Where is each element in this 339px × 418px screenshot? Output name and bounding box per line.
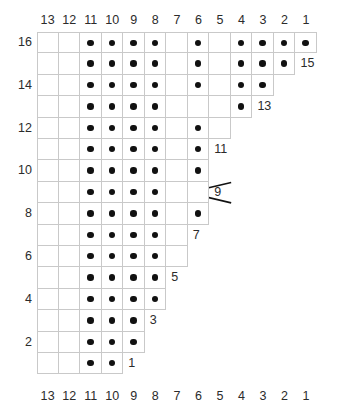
chart-cell-r16-c6 bbox=[188, 32, 210, 53]
chart-cell-r16-c4 bbox=[231, 32, 253, 53]
chart-cell-r10-c12 bbox=[59, 160, 81, 181]
chart-cell-r3-c12 bbox=[59, 310, 81, 331]
chart-cell-r6-c13 bbox=[37, 246, 59, 267]
purl-dot-icon bbox=[109, 189, 115, 195]
chart-cell-r14-c5 bbox=[209, 75, 231, 96]
purl-dot-icon bbox=[259, 82, 265, 88]
chart-cell-r8-c10 bbox=[102, 203, 124, 224]
chart-cell-r9-c10 bbox=[102, 182, 124, 203]
row-label-1: 1 bbox=[128, 353, 135, 374]
row-label-15: 15 bbox=[300, 53, 314, 74]
purl-dot-icon bbox=[238, 82, 244, 88]
chart-cell-r9-c6 bbox=[188, 182, 210, 203]
purl-dot-icon bbox=[87, 40, 93, 46]
chart-cell-r11-c9 bbox=[123, 139, 145, 160]
chart-cell-r15-c6 bbox=[188, 53, 210, 74]
purl-dot-icon bbox=[281, 40, 287, 46]
purl-dot-icon bbox=[130, 167, 136, 173]
purl-dot-icon bbox=[87, 125, 93, 131]
purl-dot-icon bbox=[195, 60, 201, 66]
chart-cell-r8-c6 bbox=[188, 203, 210, 224]
chart-cell-r16-c11 bbox=[80, 32, 102, 53]
chart-cell-r15-c11 bbox=[80, 53, 102, 74]
chart-cell-r14-c3 bbox=[252, 75, 274, 96]
purl-dot-icon bbox=[109, 339, 115, 345]
purl-dot-icon bbox=[87, 210, 93, 216]
chart-cell-r15-c4 bbox=[231, 53, 253, 74]
purl-dot-icon bbox=[130, 317, 136, 323]
purl-dot-icon bbox=[109, 232, 115, 238]
row-label-14: 14 bbox=[6, 75, 32, 96]
chart-cell-r2-c13 bbox=[37, 332, 59, 353]
chart-row-3 bbox=[37, 310, 145, 331]
purl-dot-icon bbox=[130, 146, 136, 152]
row-label-16: 16 bbox=[6, 32, 32, 53]
purl-dot-icon bbox=[238, 60, 244, 66]
purl-dot-icon bbox=[109, 317, 115, 323]
column-label-top-11: 11 bbox=[80, 10, 102, 30]
purl-dot-icon bbox=[130, 253, 136, 259]
chart-cell-r5-c11 bbox=[80, 267, 102, 288]
chart-cell-r10-c7 bbox=[166, 160, 188, 181]
chart-cell-r14-c4 bbox=[231, 75, 253, 96]
purl-dot-icon bbox=[152, 189, 158, 195]
purl-dot-icon bbox=[87, 167, 93, 173]
purl-dot-icon bbox=[109, 60, 115, 66]
purl-dot-icon bbox=[87, 296, 93, 302]
chart-cell-r14-c10 bbox=[102, 75, 124, 96]
chart-cell-r5-c10 bbox=[102, 267, 124, 288]
chart-cell-r14-c12 bbox=[59, 75, 81, 96]
purl-dot-icon bbox=[130, 60, 136, 66]
chart-cell-r7-c10 bbox=[102, 225, 124, 246]
chart-row-4 bbox=[37, 289, 166, 310]
chart-cell-r7-c12 bbox=[59, 225, 81, 246]
chart-cell-r1-c13 bbox=[37, 353, 59, 374]
chart-cell-r13-c8 bbox=[145, 96, 167, 117]
purl-dot-icon bbox=[87, 146, 93, 152]
chart-cell-r14-c6 bbox=[188, 75, 210, 96]
column-label-bottom-10: 10 bbox=[102, 386, 124, 406]
purl-dot-icon bbox=[109, 210, 115, 216]
column-label-top-10: 10 bbox=[102, 10, 124, 30]
row-label-11: 11 bbox=[214, 139, 227, 160]
purl-dot-icon bbox=[130, 274, 136, 280]
chart-cell-r12-c13 bbox=[37, 118, 59, 139]
purl-dot-icon bbox=[87, 360, 93, 366]
chart-cell-r5-c8 bbox=[145, 267, 167, 288]
chart-cell-r13-c7 bbox=[166, 96, 188, 117]
chart-cell-r8-c13 bbox=[37, 203, 59, 224]
chart-cell-r8-c11 bbox=[80, 203, 102, 224]
chart-row-5 bbox=[37, 267, 166, 288]
chart-cell-r7-c11 bbox=[80, 225, 102, 246]
chart-row-10 bbox=[37, 160, 209, 181]
chart-cell-r6-c8 bbox=[145, 246, 167, 267]
purl-dot-icon bbox=[109, 167, 115, 173]
chart-cell-r8-c8 bbox=[145, 203, 167, 224]
chart-cell-r11-c13 bbox=[37, 139, 59, 160]
chart-cell-r4-c13 bbox=[37, 289, 59, 310]
column-label-top-9: 9 bbox=[123, 10, 145, 30]
column-label-bottom-8: 8 bbox=[145, 386, 167, 406]
purl-dot-icon bbox=[152, 210, 158, 216]
chart-cell-r6-c11 bbox=[80, 246, 102, 267]
purl-dot-icon bbox=[195, 210, 201, 216]
row-label-12: 12 bbox=[6, 118, 32, 139]
chart-cell-r5-c12 bbox=[59, 267, 81, 288]
row-label-9: 9 bbox=[214, 182, 221, 203]
purl-dot-icon bbox=[87, 274, 93, 280]
purl-dot-icon bbox=[259, 40, 265, 46]
chart-cell-r12-c6 bbox=[188, 118, 210, 139]
purl-dot-icon bbox=[195, 167, 201, 173]
chart-cell-r14-c9 bbox=[123, 75, 145, 96]
column-label-top-12: 12 bbox=[59, 10, 81, 30]
column-label-top-5: 5 bbox=[209, 10, 231, 30]
row-label-8: 8 bbox=[6, 203, 32, 224]
chart-cell-r8-c9 bbox=[123, 203, 145, 224]
row-label-4: 4 bbox=[6, 289, 32, 310]
chart-cell-r16-c2 bbox=[274, 32, 296, 53]
chart-row-15 bbox=[37, 53, 295, 74]
purl-dot-icon bbox=[152, 60, 158, 66]
column-label-bottom-9: 9 bbox=[123, 386, 145, 406]
chart-cell-r13-c9 bbox=[123, 96, 145, 117]
column-label-top-1: 1 bbox=[295, 10, 317, 30]
